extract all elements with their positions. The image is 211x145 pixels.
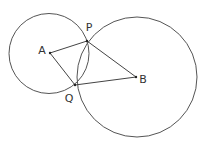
label-B: B xyxy=(139,73,147,86)
points-group xyxy=(49,40,137,86)
point-Q xyxy=(74,84,76,86)
segment-AP xyxy=(50,41,87,53)
segment-AQ xyxy=(50,53,75,85)
segment-QB xyxy=(75,77,136,85)
label-P: P xyxy=(86,21,93,34)
segment-PB xyxy=(87,41,136,77)
circles-group xyxy=(9,14,197,138)
label-A: A xyxy=(38,44,46,57)
geometry-diagram: A P Q B xyxy=(0,0,211,145)
segments-group xyxy=(50,41,136,85)
point-A xyxy=(49,52,51,54)
labels-group: A P Q B xyxy=(38,21,147,105)
point-B xyxy=(135,76,137,78)
point-P xyxy=(86,40,88,42)
label-Q: Q xyxy=(65,92,74,105)
